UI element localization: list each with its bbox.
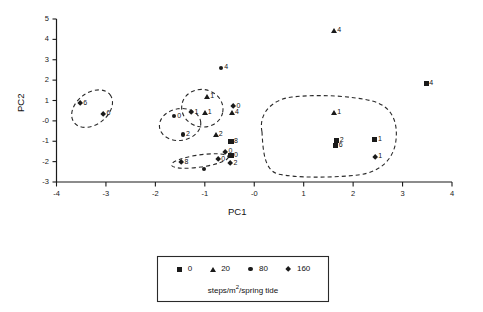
data-point-label: 6	[106, 109, 110, 116]
legend-caption: steps/m2/spring tide	[157, 284, 329, 295]
data-point-label: 4	[429, 79, 433, 86]
legend-label: 80	[259, 265, 268, 273]
circle-icon	[248, 267, 253, 272]
x-tick-label: 2	[343, 190, 363, 198]
legend-items: 02080160	[157, 265, 329, 273]
data-point-label: 0	[234, 151, 238, 158]
x-tick-label: 4	[442, 190, 462, 198]
data-point-label: 6	[339, 141, 343, 148]
y-tick-label: -3	[34, 178, 49, 186]
legend-circle-marker-icon	[247, 266, 254, 273]
y-tick-label: 4	[34, 35, 49, 43]
y-tick-label: -2	[34, 158, 49, 166]
x-axis-title: PC1	[228, 207, 246, 217]
square-marker-icon	[333, 143, 338, 148]
legend-label: 20	[221, 265, 230, 273]
x-tick-label: -4	[47, 190, 67, 198]
data-point-label: 8	[185, 158, 189, 165]
data-point-label: 1	[208, 108, 212, 115]
data-point-label: 8	[234, 137, 238, 144]
legend-item-0: 0	[176, 265, 192, 273]
legend-triangle-marker-icon	[209, 266, 216, 273]
data-point-label: 1	[210, 92, 214, 99]
x-tick-label: -0	[244, 190, 264, 198]
legend-item-160: 160	[285, 265, 310, 273]
pca-scatter-figure: 660211180404280021261144 -4-3-2-1-01234 …	[0, 0, 483, 312]
square-icon	[177, 267, 182, 272]
data-point-label: 4	[224, 63, 228, 70]
y-axis-title: PC2	[16, 94, 26, 112]
data-point-label: 0	[221, 155, 225, 162]
data-point-label: 0	[177, 112, 181, 119]
legend-caption-suffix: /spring tide	[239, 286, 278, 295]
data-point-label: 1	[337, 108, 341, 115]
legend: 02080160 steps/m2/spring tide	[157, 256, 329, 302]
y-tick-label: -0	[34, 117, 49, 125]
y-tick-label: 1	[34, 97, 49, 105]
triangle-icon	[210, 267, 216, 272]
legend-caption-prefix: steps/m	[208, 286, 236, 295]
x-tick-label: -3	[96, 190, 116, 198]
legend-diamond-marker-icon	[285, 266, 292, 273]
legend-square-marker-icon	[176, 266, 183, 273]
circle-marker-icon	[172, 114, 177, 119]
circle-marker-icon	[181, 132, 186, 137]
data-point-label: 1	[378, 152, 382, 159]
data-point-label: 1	[194, 108, 198, 115]
data-point-label: 4	[337, 26, 341, 33]
data-point-label: 1	[378, 135, 382, 142]
data-point-label: 2	[219, 130, 223, 137]
legend-item-80: 80	[247, 265, 268, 273]
square-marker-icon	[228, 139, 233, 144]
y-tick-label: 3	[34, 56, 49, 64]
square-marker-icon	[228, 153, 233, 158]
y-tick-label: 5	[34, 15, 49, 23]
x-tick-label: -1	[195, 190, 215, 198]
legend-label: 0	[188, 265, 192, 273]
y-tick-label: 2	[34, 76, 49, 84]
diamond-icon	[285, 266, 291, 272]
data-point-label: 2	[186, 130, 190, 137]
legend-label: 160	[297, 265, 310, 273]
circle-marker-icon	[202, 167, 207, 172]
legend-item-20: 20	[209, 265, 230, 273]
x-tick-label: -2	[145, 190, 165, 198]
circle-marker-icon	[219, 66, 224, 71]
x-tick-label: 1	[294, 190, 314, 198]
data-point-label: 4	[235, 108, 239, 115]
plot-area: 660211180404280021261144	[0, 0, 483, 240]
y-tick-label: -1	[34, 137, 49, 145]
x-tick-label: 3	[393, 190, 413, 198]
square-marker-icon	[424, 81, 429, 86]
data-point-label: 6	[83, 99, 87, 106]
square-marker-icon	[372, 137, 377, 142]
data-point-label: 2	[234, 159, 238, 166]
